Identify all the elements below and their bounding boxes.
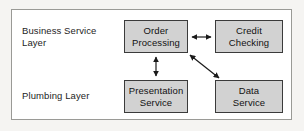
layer-label-business-service: Business Service Layer	[22, 25, 96, 48]
node-order-processing[interactable]: Order Processing	[124, 20, 188, 53]
node-presentation-service[interactable]: Presentation Service	[124, 80, 188, 113]
layer-label-plumbing: Plumbing Layer	[22, 90, 89, 102]
diagram-canvas: Business Service Layer Plumbing Layer Or…	[0, 0, 304, 131]
node-data-service[interactable]: Data Service	[215, 80, 283, 113]
node-credit-checking[interactable]: Credit Checking	[215, 20, 283, 53]
